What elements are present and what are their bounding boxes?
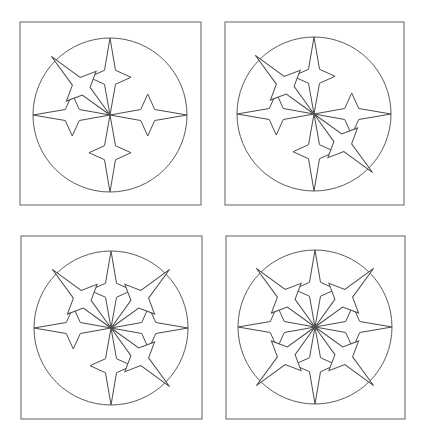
panel-4 (0, 0, 427, 437)
panel-4-drawing (0, 0, 427, 437)
